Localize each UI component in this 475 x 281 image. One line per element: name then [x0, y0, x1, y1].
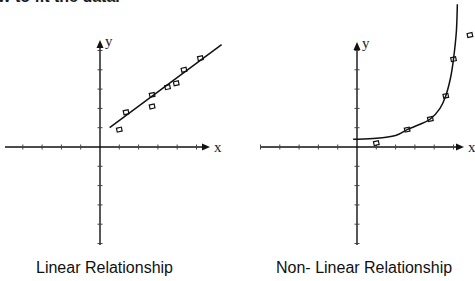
- data-point-marker: [149, 104, 155, 109]
- linear-chart: xy: [5, 33, 222, 245]
- x-axis-label: x: [214, 139, 222, 155]
- x-axis-arrow-icon: [202, 144, 210, 151]
- data-point-marker: [116, 127, 122, 132]
- linear-caption: Linear Relationship: [36, 259, 173, 277]
- nonlinear-caption: Non- Linear Relationship: [276, 259, 452, 277]
- y-axis-arrow-icon: [354, 42, 361, 50]
- y-axis-label: y: [362, 35, 370, 51]
- data-point-marker: [173, 81, 179, 86]
- y-axis-arrow-icon: [97, 40, 104, 48]
- data-point-marker: [467, 33, 473, 38]
- charts-canvas: xy xy: [0, 0, 475, 281]
- y-axis-label: y: [105, 33, 113, 49]
- nonlinear-chart: xy: [261, 4, 475, 245]
- fit-curve: [353, 4, 457, 139]
- x-axis-arrow-icon: [456, 144, 464, 151]
- fit-line: [110, 45, 222, 128]
- x-axis-label: x: [468, 139, 475, 155]
- data-point-marker: [373, 141, 379, 146]
